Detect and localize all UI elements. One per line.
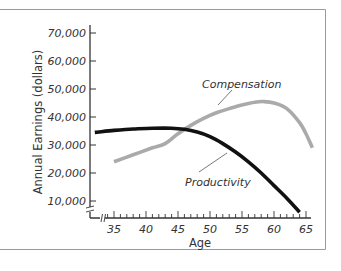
y-tick-label: 20,000: [48, 167, 87, 180]
compensation-pointer: [218, 90, 232, 105]
x-tick-label: 40: [139, 223, 153, 236]
x-tick-label: 45: [171, 223, 185, 236]
y-tick-label: 70,000: [48, 27, 87, 40]
x-tick-label: 65: [299, 223, 313, 236]
y-axis-title: Annual Earnings (dollars): [31, 50, 45, 195]
chart-figure: 10,00020,00030,00040,00050,00060,00070,0…: [0, 0, 341, 271]
y-tick-label: 30,000: [48, 139, 87, 152]
compensation-label: Compensation: [202, 78, 281, 91]
x-tick-label: 50: [203, 223, 217, 236]
earnings-chart: 10,00020,00030,00040,00050,00060,00070,0…: [0, 0, 341, 271]
x-tick-label: 35: [107, 223, 121, 236]
productivity-label: Productivity: [185, 176, 251, 189]
y-tick-label: 10,000: [48, 195, 87, 208]
y-ticks: 10,00020,00030,00040,00050,00060,00070,0…: [48, 27, 97, 208]
y-tick-label: 40,000: [48, 111, 87, 124]
axes: [86, 25, 311, 222]
x-tick-label: 55: [235, 223, 249, 236]
compensation-line: [114, 102, 312, 162]
y-tick-label: 50,000: [48, 83, 87, 96]
x-axis-break-icon: [100, 214, 106, 222]
productivity-line: [95, 128, 300, 212]
x-ticks: 35404550556065: [107, 211, 313, 236]
x-tick-label: 60: [267, 223, 281, 236]
x-axis-title: Age: [189, 236, 211, 250]
y-tick-label: 60,000: [48, 55, 87, 68]
productivity-pointer: [199, 153, 227, 172]
y-axis-break-icon: [86, 206, 94, 212]
